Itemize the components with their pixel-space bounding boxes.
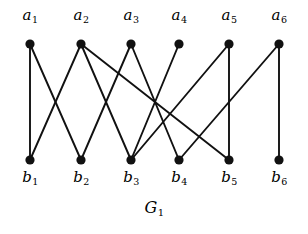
vertex-label-b6: b6 xyxy=(271,170,287,185)
graph-vertex-a3 xyxy=(126,39,135,48)
bipartite-graph-figure: a1a2a3a4a5a6b1b2b3b4b5b6 G1 xyxy=(0,0,308,234)
graph-vertex-a4 xyxy=(174,39,183,48)
graph-caption: G1 xyxy=(144,200,163,216)
graph-vertex-b4 xyxy=(174,155,183,164)
vertex-label-b4: b4 xyxy=(171,170,187,185)
graph-vertex-a1 xyxy=(25,39,34,48)
vertex-label-a6: a6 xyxy=(272,8,287,23)
vertex-label-a2: a2 xyxy=(74,8,89,23)
graph-edge xyxy=(131,44,229,160)
vertex-label-a4: a4 xyxy=(172,8,187,23)
graph-vertex-a6 xyxy=(274,39,283,48)
graph-vertex-b5 xyxy=(224,155,233,164)
vertex-label-a5: a5 xyxy=(222,8,237,23)
vertex-label-a3: a3 xyxy=(124,8,139,23)
graph-vertex-b6 xyxy=(274,155,283,164)
vertex-label-b5: b5 xyxy=(221,170,237,185)
graph-vertex-b3 xyxy=(126,155,135,164)
vertex-label-b3: b3 xyxy=(123,170,139,185)
vertex-label-b1: b1 xyxy=(22,170,38,185)
vertex-label-b2: b2 xyxy=(73,170,89,185)
edge-layer xyxy=(30,44,279,160)
graph-vertex-a5 xyxy=(224,39,233,48)
vertex-label-a1: a1 xyxy=(23,8,38,23)
graph-vertex-a2 xyxy=(76,39,85,48)
graph-vertex-b2 xyxy=(76,155,85,164)
graph-vertex-b1 xyxy=(25,155,34,164)
